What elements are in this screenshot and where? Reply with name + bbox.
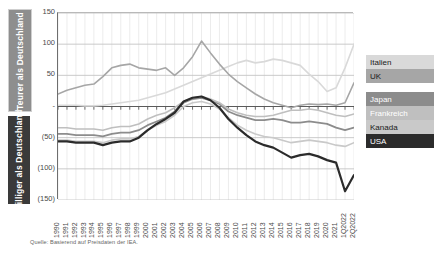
- legend: ItalienUKJapanFrankreichKanadaUSA: [366, 55, 434, 148]
- x-axis-tick-label: 2020: [322, 222, 329, 238]
- plot-area: [57, 12, 353, 199]
- x-axis-tick-label: 2005: [187, 222, 194, 238]
- x-axis-tick-label: 2013: [259, 222, 266, 238]
- y-axis-tick-labels: 15010050-(50)(100)(150): [8, 0, 55, 255]
- x-axis-tick-label: 2019: [313, 222, 320, 238]
- legend-item-uk[interactable]: UK: [366, 69, 434, 83]
- y-axis-tick-label: -: [9, 102, 55, 110]
- legend-item-label: Kanada: [370, 123, 398, 132]
- x-axis-tick-label: 2000: [142, 222, 149, 238]
- x-axis-tick-label: 2007: [205, 222, 212, 238]
- x-axis-tick-label: 2009: [223, 222, 230, 238]
- x-axis-tick-label: 1999: [133, 222, 140, 238]
- x-axis-tick-label: 1997: [115, 222, 122, 238]
- x-axis-tick-label: 2003: [169, 222, 176, 238]
- legend-item-label: Frankreich: [370, 109, 408, 118]
- x-axis-tick-label: 2Q2022: [349, 213, 356, 238]
- y-axis-tick-label: (100): [9, 164, 55, 172]
- x-axis-tick-label: 2010: [232, 222, 239, 238]
- x-axis-tick-label: 1994: [88, 222, 95, 238]
- legend-item-kanada[interactable]: Kanada: [366, 120, 434, 134]
- series-canvas: [58, 13, 354, 200]
- legend-item-usa[interactable]: USA: [366, 134, 434, 148]
- legend-item-label: Japan: [370, 95, 392, 104]
- legend-item-label: USA: [370, 137, 386, 146]
- x-axis-tick-label: 2011: [241, 223, 248, 238]
- legend-item-japan[interactable]: Japan: [366, 92, 434, 106]
- x-axis-tick-label: 2012: [250, 222, 257, 238]
- legend-spacer: [366, 83, 434, 92]
- x-axis-tick-label: 2002: [160, 222, 167, 238]
- legend-item-label: Italien: [370, 58, 391, 67]
- x-axis-tick-label: 2006: [196, 222, 203, 238]
- x-axis-tick-label: 2004: [178, 222, 185, 238]
- x-axis-tick-labels: 1990199119921993199419951996199719981999…: [57, 200, 357, 238]
- x-axis-tick-label: 1993: [80, 222, 87, 238]
- y-axis-tick-label: (50): [9, 133, 55, 141]
- x-axis-tick-label: 2014: [268, 222, 275, 238]
- legend-item-italien[interactable]: Italien: [366, 55, 434, 69]
- x-axis-tick-label: 2001: [151, 222, 158, 238]
- y-axis-tick-label: 50: [9, 70, 55, 78]
- x-axis-tick-label: 1998: [124, 222, 131, 238]
- y-axis-tick-label: 100: [9, 39, 55, 47]
- x-axis-tick-label: 2008: [214, 222, 221, 238]
- y-axis-tick-label: 150: [9, 8, 55, 16]
- legend-item-label: UK: [370, 72, 381, 81]
- x-axis-tick-label: 1991: [62, 222, 69, 238]
- y-axis-tick-label: (150): [9, 195, 55, 203]
- chart-figure: Teurer als Deutschland Billiger als Deut…: [0, 0, 436, 255]
- x-axis-tick-label: 2016: [286, 222, 293, 238]
- source-note: Quelle: Basierend auf Preisdaten der IEA…: [30, 239, 138, 245]
- x-axis-tick-label: 2018: [304, 222, 311, 238]
- x-axis-tick-label: 2015: [277, 222, 284, 238]
- x-axis-tick-label: 1996: [106, 222, 113, 238]
- x-axis-tick-label: 1992: [71, 222, 78, 238]
- x-axis-tick-label: 1995: [97, 222, 104, 238]
- x-axis-tick-label: 2021: [331, 222, 338, 238]
- x-axis-tick-label: 1990: [53, 222, 60, 238]
- x-axis-tick-label: 2017: [295, 222, 302, 238]
- legend-item-frankreich[interactable]: Frankreich: [366, 106, 434, 120]
- x-axis-tick-label: 1Q2022: [340, 213, 347, 238]
